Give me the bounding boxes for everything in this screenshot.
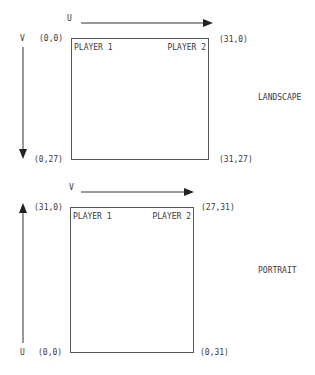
landscape-corner-top-left: (0,0) <box>39 34 63 44</box>
landscape-v-axis-label: V <box>20 34 25 44</box>
landscape-v-arrow-icon <box>19 47 27 159</box>
landscape-player1-label: PLAYER 1 <box>74 43 113 53</box>
landscape-player2-label: PLAYER 2 <box>167 43 206 53</box>
portrait-corner-top-left: (31,0) <box>34 203 63 213</box>
portrait-u-arrow-icon <box>19 203 27 343</box>
landscape-corner-bottom-left: (0,27) <box>34 155 63 165</box>
portrait-player1-label: PLAYER 1 <box>73 212 112 222</box>
portrait-screen: PLAYER 1 PLAYER 2 <box>70 207 194 353</box>
portrait-u-axis-label: U <box>20 348 25 358</box>
landscape-corner-bottom-right: (31,27) <box>219 155 253 165</box>
landscape-label: LANDSCAPE <box>258 93 301 103</box>
portrait-corner-bottom-right: (0,31) <box>200 348 229 358</box>
portrait-corner-top-right: (27,31) <box>201 203 235 213</box>
portrait-label: PORTRAIT <box>258 266 297 276</box>
portrait-corner-bottom-left: (0,0) <box>38 348 62 358</box>
landscape-corner-top-right: (31,0) <box>219 35 248 45</box>
portrait-v-axis-label: V <box>69 183 74 193</box>
portrait-player2-label: PLAYER 2 <box>152 212 191 222</box>
landscape-screen: PLAYER 1 PLAYER 2 <box>71 38 209 160</box>
portrait-v-arrow-icon <box>81 188 194 196</box>
landscape-u-arrow-icon <box>81 19 213 27</box>
landscape-u-axis-label: U <box>67 14 72 24</box>
